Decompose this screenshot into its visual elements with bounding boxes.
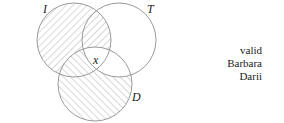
label-darii: Darii (200, 70, 262, 83)
label-valid: valid (200, 44, 262, 57)
center-mark: x (92, 53, 99, 67)
set-t-label: T (147, 2, 155, 16)
set-d-label: D (131, 90, 141, 104)
label-barbara: Barbara (200, 57, 262, 70)
side-labels: valid Barbara Darii (200, 44, 262, 83)
